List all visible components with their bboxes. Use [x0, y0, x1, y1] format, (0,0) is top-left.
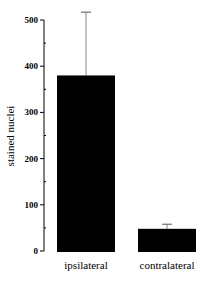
bar-rect [57, 75, 115, 252]
y-tick-label: 100 [25, 200, 39, 210]
bar-contralateral: contralateral [138, 224, 196, 271]
bar-chart: 0100200300400500 ipsilateralcontralatera… [0, 0, 208, 283]
y-tick-label: 400 [25, 61, 39, 71]
y-tick-label: 300 [25, 107, 39, 117]
y-axis-title: stained nuclei [4, 106, 16, 167]
y-tick-label: 200 [25, 154, 39, 164]
x-category-label: contralateral [140, 259, 195, 271]
bar-rect [138, 229, 196, 252]
y-tick-label: 500 [25, 15, 39, 25]
bars: ipsilateralcontralateral [57, 12, 196, 271]
y-tick-label: 0 [34, 246, 39, 256]
y-axis: 0100200300400500 [25, 15, 47, 256]
x-category-label: ipsilateral [64, 259, 107, 271]
bar-ipsilateral: ipsilateral [57, 12, 115, 271]
